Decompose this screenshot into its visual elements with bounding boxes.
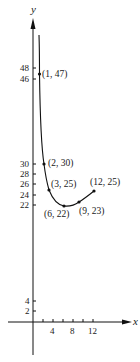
x-axis-label: x bbox=[132, 315, 138, 327]
y-tick-28: 28 bbox=[20, 169, 30, 179]
y-axis-arrow-icon bbox=[31, 18, 36, 29]
y-tick-4: 4 bbox=[25, 296, 30, 306]
point-label-1: (1, 47) bbox=[42, 69, 67, 80]
y-tick-46: 46 bbox=[20, 74, 30, 84]
x-tick-8: 8 bbox=[70, 326, 75, 336]
y-tick-48: 48 bbox=[20, 63, 30, 73]
y-tick-24: 24 bbox=[20, 190, 30, 200]
y-tick-26: 26 bbox=[20, 179, 30, 189]
x-tick-12: 12 bbox=[88, 326, 97, 336]
x-tick-4: 4 bbox=[50, 326, 55, 336]
point-label-4: (6, 22) bbox=[44, 209, 69, 220]
y-tick-22: 22 bbox=[20, 200, 29, 210]
point-label-2: (2, 30) bbox=[48, 158, 73, 169]
chart: y x 4 8 12 2 4 22 24 26 28 30 46 48 bbox=[0, 0, 140, 362]
point-label-5: (9, 23) bbox=[79, 206, 104, 217]
y-tick-30: 30 bbox=[20, 159, 30, 169]
point-label-3: (3, 25) bbox=[51, 179, 76, 190]
x-axis-arrow-icon bbox=[122, 320, 132, 325]
y-axis-label: y bbox=[30, 3, 36, 15]
point-label-6: (12, 25) bbox=[90, 177, 120, 188]
y-tick-2: 2 bbox=[25, 306, 30, 316]
